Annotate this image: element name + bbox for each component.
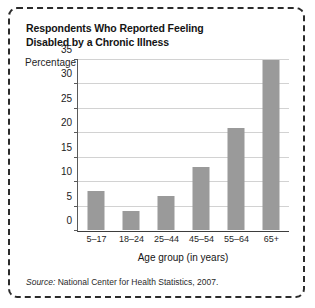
chart-figure-card: Respondents Who Reported Feeling Disable… bbox=[8, 7, 305, 298]
x-axis-tick-label: 45–54 bbox=[189, 234, 214, 244]
y-axis-tick-mark bbox=[74, 157, 78, 158]
bar bbox=[123, 211, 140, 230]
x-axis-tick-label: 5–17 bbox=[86, 234, 106, 244]
y-axis-tick-mark bbox=[74, 206, 78, 207]
y-axis-tick-mark bbox=[74, 230, 78, 231]
x-axis-tick-label: 55–64 bbox=[224, 234, 249, 244]
y-axis-tick-label: 10 bbox=[61, 167, 72, 177]
chart-title-line-1: Respondents Who Reported Feeling bbox=[26, 21, 276, 35]
y-axis-tick-label: 5 bbox=[66, 192, 72, 202]
plot-frame: 05101520253035 5–1718–2425–4445–5455–646… bbox=[77, 60, 289, 232]
y-axis-tick-label: 25 bbox=[61, 94, 72, 104]
bar bbox=[263, 60, 280, 230]
bar bbox=[228, 128, 245, 230]
x-axis-tick-label: 18–24 bbox=[119, 234, 144, 244]
bar-slot: 45–54 bbox=[184, 60, 219, 230]
y-axis-tick-mark bbox=[74, 181, 78, 182]
y-axis-tick-label: 0 bbox=[66, 216, 72, 226]
bar-slot: 5–17 bbox=[79, 60, 114, 230]
y-axis-tick-label: 15 bbox=[61, 143, 72, 153]
source-prefix: Source: bbox=[26, 277, 55, 287]
bar-slot: 65+ bbox=[254, 60, 289, 230]
y-axis-tick-mark bbox=[74, 132, 78, 133]
bars-group: 5–1718–2425–4445–5455–6465+ bbox=[79, 60, 289, 230]
bar-slot: 18–24 bbox=[114, 60, 149, 230]
y-axis-tick-label: 30 bbox=[61, 69, 72, 79]
bar bbox=[193, 167, 210, 230]
bar-slot: 25–44 bbox=[149, 60, 184, 230]
y-axis-tick-mark bbox=[74, 108, 78, 109]
y-axis-tick-mark bbox=[74, 59, 78, 60]
y-axis-tick-mark bbox=[74, 83, 78, 84]
bar-slot: 55–64 bbox=[219, 60, 254, 230]
plot-area: 05101520253035 5–1718–2425–4445–5455–646… bbox=[77, 60, 289, 232]
y-axis-tick-label: 20 bbox=[61, 118, 72, 128]
x-axis-tick-label: 25–44 bbox=[154, 234, 179, 244]
bar bbox=[88, 191, 105, 230]
source-note: Source: National Center for Health Stati… bbox=[26, 277, 218, 287]
y-axis-tick-label: 35 bbox=[61, 45, 72, 55]
x-axis-label: Age group (in years) bbox=[77, 252, 289, 263]
x-axis-tick-label: 65+ bbox=[264, 234, 279, 244]
bar bbox=[158, 196, 175, 230]
source-text: National Center for Health Statistics, 2… bbox=[58, 277, 219, 287]
y-axis-label: Percentage bbox=[25, 57, 76, 68]
